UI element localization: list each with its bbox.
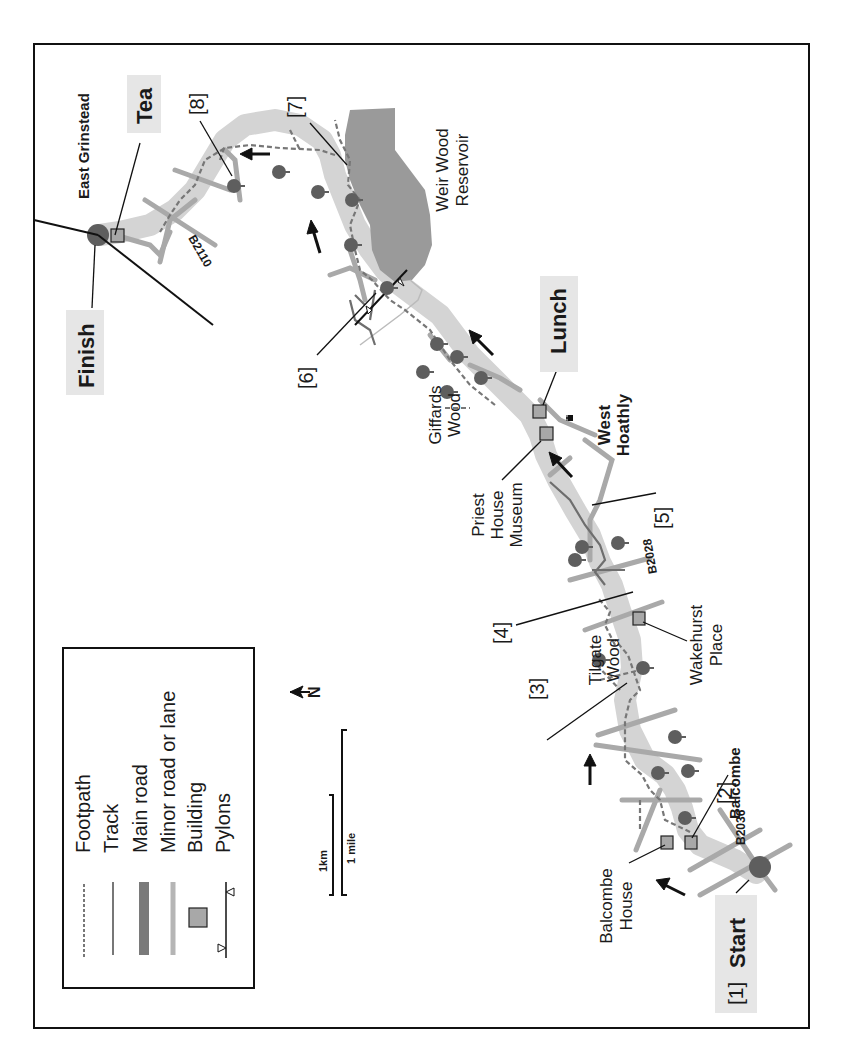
place-tilgate-wood-line2: Wood [604,638,623,682]
building-balcombe-house [661,836,673,849]
place-west-hoathly-line2: Hoathly [614,393,633,456]
legend-label-footpath: Footpath [72,774,94,853]
waypoint-6-label: [6] [295,367,317,389]
building-lunch [533,405,546,418]
north-label: N [306,686,323,698]
waypoint-3-label: [3] [526,678,548,700]
place-weir-line2: Reservoir [453,133,472,206]
lunch-label: Lunch [546,288,571,354]
place-weir-wood-reservoir: Weir Wood Reservoir [433,128,472,211]
walk-route-map: Footpath Track Main road Minor road or l… [0,0,842,1058]
place-priest-line2: House [488,490,507,539]
legend-label-main-road: Main road [129,764,151,853]
legend: Footpath Track Main road Minor road or l… [63,648,254,988]
place-tilgate-wood-line1: Tilgate [586,635,605,685]
finish-label: Finish [74,323,99,388]
start-point-icon [749,856,771,878]
place-west-hoathly-line1: West [595,405,614,446]
waypoint-8-label: [8] [186,93,208,115]
place-giffards-wood: Giffards Wood [426,385,464,444]
place-priest-line3: Museum [507,482,526,547]
place-priest-line1: Priest [469,493,488,537]
legend-building-symbol [189,908,207,927]
place-weir-line1: Weir Wood [433,128,452,211]
place-east-grinstead: East Grinstead [75,93,92,199]
place-balcombe-house-line1: Balcombe [597,868,616,944]
building-tea [111,229,124,242]
place-giffards-line2: Wood [445,393,464,437]
legend-label-track: Track [100,803,122,853]
place-balcombe-house-line2: House [617,881,636,930]
building-wakehurst-place [633,612,645,625]
waypoint-7-label: [7] [284,96,306,118]
start-label: Start [725,917,750,968]
waypoint-4-label: [4] [490,622,512,644]
legend-label-building: Building [184,782,206,853]
waypoint-5-label: [5] [651,507,673,529]
scale-km-label: 1km [317,850,329,872]
road-label-b2036: B2036 [734,809,748,845]
church-icon [566,415,573,421]
place-giffards-line1: Giffards [426,385,445,444]
legend-label-minor-road: Minor road or lane [157,691,179,853]
tea-label: Tea [132,87,157,124]
start-number-label: [1] [724,982,747,1005]
legend-label-pylons: Pylons [212,793,234,853]
place-balcombe: Balcombe [726,747,743,819]
building-balcombe [685,836,697,849]
place-tilgate-wood: Tilgate Wood [586,635,623,685]
building-priest-house-museum [540,427,553,440]
place-wakehurst-line2: Place [707,624,726,667]
scale-mile-label: 1 mile [345,833,357,864]
place-wakehurst-line1: Wakehurst [687,604,706,685]
